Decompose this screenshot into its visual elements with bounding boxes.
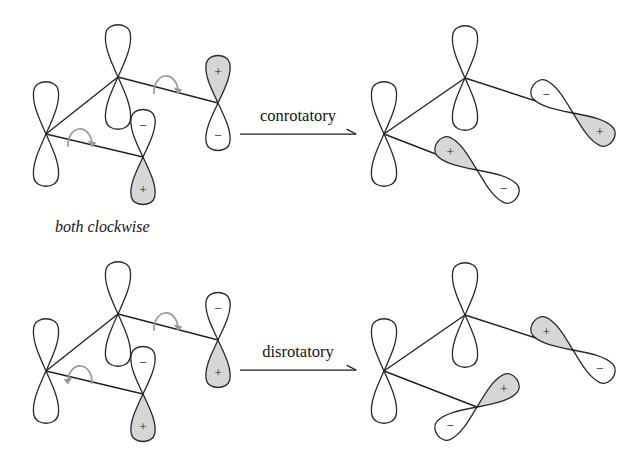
skeleton-bond <box>118 77 218 103</box>
disrotatory-product: +−−+ <box>371 263 619 445</box>
c1-orbital-top-lobe <box>371 82 396 134</box>
diagram-canvas: −++−conrotatory−++−both clockwise−+−+dis… <box>0 0 633 451</box>
c3-orbital-top-lobe-shape <box>470 160 523 207</box>
rotation-arrow-lower <box>68 129 96 147</box>
conrotatory-product: −++− <box>371 26 619 208</box>
conrotatory-row-label: conrotatory <box>260 106 337 125</box>
c3-orbital-top-lobe-shape <box>470 370 523 417</box>
skeleton-bond <box>384 315 465 371</box>
c4-orbital: +− <box>527 76 620 151</box>
rows-layer: −++−conrotatory−++−both clockwise−+−+dis… <box>33 25 619 445</box>
c4-orbital: −+ <box>527 313 620 388</box>
c2-orbital-top-lobe <box>105 25 130 77</box>
c2-orbital-top-lobe <box>452 26 477 78</box>
c3-orbital: −+ <box>131 347 155 442</box>
c3-orbital-top-lobe: + <box>470 370 523 417</box>
c1-orbital-bottom-lobe-shape <box>33 134 58 186</box>
skeleton-bond <box>384 371 477 407</box>
c3-orbital-bottom-lobe-shape <box>131 157 155 205</box>
c2-orbital <box>452 263 477 368</box>
rotation-arrow-upper-arc <box>154 313 178 330</box>
c2-orbital-top-lobe-shape <box>452 26 477 78</box>
c3-orbital-bottom-lobe: + <box>431 133 484 180</box>
c4-orbital-bottom-lobe: − <box>206 103 230 151</box>
c1-orbital-top-lobe-shape <box>371 319 396 371</box>
c1-orbital <box>33 319 58 424</box>
c1-orbital <box>371 319 396 424</box>
c4-orbital-top-lobe-shape <box>206 293 230 341</box>
c4-orbital-bottom-lobe: + <box>206 340 230 388</box>
electrocyclic-reaction-figure: −++−conrotatory−++−both clockwise−+−+dis… <box>0 0 633 451</box>
disrotatory-row-label: disrotatory <box>262 342 334 361</box>
c1-orbital-bottom-lobe <box>371 371 396 423</box>
c3-orbital: −+ <box>431 133 524 208</box>
c1-orbital-bottom-lobe-shape <box>371 134 396 186</box>
c4-orbital: −+ <box>206 293 230 388</box>
c1-orbital <box>33 82 58 187</box>
c2-orbital-bottom-lobe <box>452 315 477 367</box>
conrotatory-row: −++−conrotatory−++−both clockwise <box>33 25 619 235</box>
c4-orbital-top-lobe: + <box>566 103 619 150</box>
c1-orbital-bottom-lobe <box>33 134 58 186</box>
disrotatory-row-reaction-arrow[interactable]: disrotatory <box>240 342 356 370</box>
c2-orbital <box>452 26 477 131</box>
c1-orbital-bottom-lobe <box>33 371 58 423</box>
c1-orbital-bottom-lobe-shape <box>371 371 396 423</box>
c3-orbital-bottom-lobe-shape <box>431 133 484 180</box>
rotation-arrow-upper <box>154 313 182 331</box>
c4-orbital-top-lobe: − <box>206 293 230 341</box>
skeleton-bond <box>46 134 143 157</box>
c1-orbital-top-lobe <box>371 319 396 371</box>
c3-orbital-bottom-lobe: + <box>131 157 155 205</box>
c2-orbital-top-lobe <box>452 263 477 315</box>
disrotatory-reactant: −+−+ <box>33 262 230 442</box>
c4-orbital-top-lobe-shape <box>206 56 230 104</box>
c4-orbital: +− <box>206 56 230 151</box>
conrotatory-reactant: −++− <box>33 25 230 205</box>
conrotatory-row-reaction-arrow[interactable]: conrotatory <box>240 106 356 134</box>
c3-orbital-bottom-lobe: − <box>431 397 484 444</box>
c4-orbital-bottom-lobe-shape <box>206 340 230 388</box>
c2-orbital-top-lobe-shape <box>105 25 130 77</box>
c2-orbital <box>105 262 130 367</box>
rotation-arrow-upper <box>154 76 182 94</box>
c2-orbital-bottom-lobe-shape <box>452 78 477 130</box>
skeleton-bond <box>384 78 465 134</box>
c2-orbital-bottom-lobe <box>452 78 477 130</box>
disrotatory-row: −+−+disrotatory+−−+ <box>33 262 619 445</box>
c4-orbital-bottom-lobe: − <box>527 76 580 123</box>
disrotatory-reactant-orbitals: −+−+ <box>33 262 230 442</box>
c3-orbital-top-lobe-shape <box>131 347 155 395</box>
c4-orbital-bottom-lobe-shape <box>527 313 580 360</box>
c3-orbital-bottom-lobe: + <box>131 394 155 442</box>
c4-orbital-top-lobe: + <box>206 56 230 104</box>
c2-orbital <box>105 25 130 130</box>
c3-orbital: −+ <box>131 110 155 205</box>
c3-orbital-bottom-lobe-shape <box>431 397 484 444</box>
c4-orbital-bottom-lobe-shape <box>527 76 580 123</box>
c3-orbital-top-lobe-shape <box>131 110 155 158</box>
c3-orbital: +− <box>431 370 524 445</box>
c3-orbital-top-lobe: − <box>131 110 155 158</box>
c4-orbital-top-lobe-shape <box>566 340 619 387</box>
c4-orbital-top-lobe-shape <box>566 103 619 150</box>
c1-orbital-bottom-lobe <box>371 134 396 186</box>
skeleton-bond <box>46 371 143 394</box>
c1-orbital <box>371 82 396 187</box>
rotation-arrow-upper-arc <box>154 76 178 93</box>
reaction-arrow-head <box>347 365 356 370</box>
c2-orbital-bottom-lobe-shape <box>452 315 477 367</box>
c3-orbital-top-lobe: − <box>131 347 155 395</box>
rotation-arrow-lower <box>64 366 92 384</box>
c3-orbital-top-lobe: − <box>470 160 523 207</box>
c2-orbital-top-lobe-shape <box>105 262 130 314</box>
c1-orbital-top-lobe-shape <box>371 82 396 134</box>
skeleton-bond <box>118 314 218 340</box>
c3-orbital-bottom-lobe-shape <box>131 394 155 442</box>
c4-orbital-bottom-lobe: + <box>527 313 580 360</box>
conrotatory-reactant-orbitals: −++− <box>33 25 230 205</box>
c4-orbital-bottom-lobe-shape <box>206 103 230 151</box>
c2-orbital-top-lobe <box>105 262 130 314</box>
conrotatory-row-caption: both clockwise <box>55 218 150 235</box>
c2-orbital-top-lobe-shape <box>452 263 477 315</box>
